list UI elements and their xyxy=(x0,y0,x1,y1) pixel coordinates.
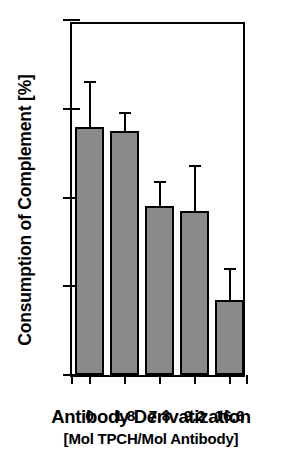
error-bar-stem xyxy=(159,182,161,206)
plot-area: 02040608001.87.89.216.6 xyxy=(70,22,245,377)
bar xyxy=(215,300,244,375)
y-axis-title: Consumption of Complement [%] xyxy=(12,32,38,388)
x-axis-tick xyxy=(194,375,196,384)
bar xyxy=(180,211,209,375)
y-axis-tick xyxy=(63,285,72,287)
y-axis-tick xyxy=(63,19,72,21)
error-bar-cap xyxy=(154,181,166,183)
error-bar-cap xyxy=(189,165,201,167)
x-axis-tick xyxy=(124,375,126,384)
y-axis-tick xyxy=(63,197,72,199)
y-axis-tick-inner xyxy=(72,108,80,110)
error-bar-stem xyxy=(229,269,231,300)
error-bar-stem xyxy=(89,82,91,126)
x-axis-edge-tick xyxy=(246,375,248,384)
bar-chart-figure: Consumption of Complement [%] 0204060800… xyxy=(0,0,302,467)
y-axis-tick xyxy=(63,108,72,110)
error-bar-stem xyxy=(124,113,126,131)
bar xyxy=(75,127,104,376)
error-bar-stem xyxy=(194,166,196,210)
error-bar-cap xyxy=(119,112,131,114)
error-bar-cap xyxy=(224,268,236,270)
x-axis-title: Antibody Derivatization xyxy=(0,406,302,428)
x-axis-tick xyxy=(229,375,231,384)
bar xyxy=(110,131,139,375)
x-axis-edge-tick xyxy=(71,375,73,384)
bar xyxy=(145,206,174,375)
x-axis-subtitle: [Mol TPCH/Mol Antibody] xyxy=(0,430,302,447)
error-bar-cap xyxy=(84,81,96,83)
x-axis-tick xyxy=(159,375,161,384)
y-axis-tick-inner xyxy=(72,19,80,21)
x-axis-tick xyxy=(89,375,91,384)
